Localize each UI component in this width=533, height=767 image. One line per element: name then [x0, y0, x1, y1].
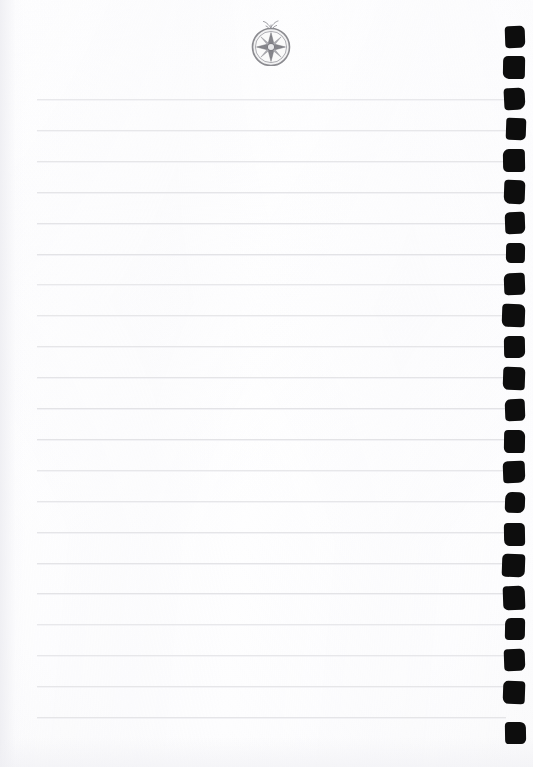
page-body-text[interactable]: [37, 99, 506, 719]
binding-hole: [505, 212, 526, 235]
binding-hole: [505, 722, 526, 744]
binding-hole: [505, 618, 525, 640]
binding-hole: [505, 399, 526, 422]
binding-hole: [506, 118, 527, 141]
binding-hole: [503, 87, 525, 110]
binding-hole: [504, 649, 526, 672]
binding-hole: [503, 367, 526, 391]
binding-hole: [503, 586, 526, 611]
binding-hole: [504, 273, 526, 296]
notebook-page: [0, 0, 533, 767]
binding-hole: [505, 492, 526, 514]
binding-hole: [505, 26, 526, 49]
binding-hole: [503, 56, 525, 79]
binding-hole: [504, 523, 525, 546]
binding-hole: [504, 430, 525, 453]
binding-hole: [503, 681, 526, 705]
binding-hole: [504, 336, 525, 358]
binding-hole: [506, 243, 525, 263]
binding-hole: [504, 180, 526, 205]
binding-hole: [503, 149, 525, 172]
binding-hole: [503, 461, 526, 484]
